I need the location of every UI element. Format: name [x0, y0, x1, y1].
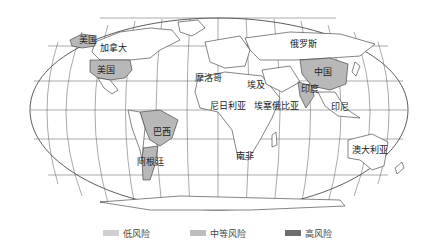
label-ethiopia: 埃塞俄比亚: [254, 102, 299, 111]
label-morocco: 摩洛哥: [195, 74, 222, 83]
label-russia: 俄罗斯: [290, 40, 317, 49]
label-south-africa: 南非: [236, 152, 254, 161]
legend-item-low-risk: 低风险: [103, 226, 150, 240]
legend-swatch-medium: [190, 230, 206, 236]
madagascar: [272, 132, 277, 147]
label-india: 印度: [301, 85, 319, 94]
new-zealand: [395, 162, 404, 174]
legend-label-low: 低风险: [123, 227, 150, 240]
label-nigeria: 尼日利亚: [210, 102, 246, 111]
label-usa-alaska: 美国: [79, 36, 97, 45]
legend-swatch-high: [285, 230, 301, 236]
world-map: [0, 0, 437, 222]
label-usa: 美国: [97, 66, 115, 75]
label-argentina: 阿根廷: [137, 158, 164, 167]
label-indonesia: 印尼: [331, 103, 349, 112]
legend-swatch-low: [103, 230, 119, 236]
label-brazil: 巴西: [153, 128, 171, 137]
legend-item-medium-risk: 中等风险: [190, 226, 246, 240]
legend-label-medium: 中等风险: [210, 227, 246, 240]
label-canada: 加拿大: [100, 44, 127, 53]
label-egypt: 埃及: [247, 81, 265, 90]
legend-item-high-risk: 高风险: [285, 226, 332, 240]
legend-label-high: 高风险: [305, 227, 332, 240]
map-legend: 低风险 中等风险 高风险: [0, 226, 437, 246]
label-china: 中国: [314, 68, 332, 77]
label-australia: 澳大利亚: [352, 146, 388, 155]
